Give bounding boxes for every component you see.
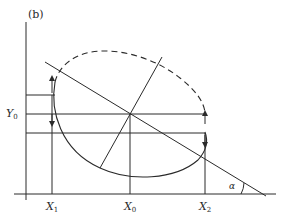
x0-label: X0 — [123, 200, 136, 214]
angle-arc — [241, 183, 244, 194]
panel-label: (b) — [28, 8, 44, 21]
y0-label: Y0 — [6, 107, 18, 121]
alpha-label: α — [229, 181, 235, 191]
diagram-canvas: (b) Y0 X1 X0 X2 α — [0, 0, 290, 220]
perpendicular-line — [100, 57, 162, 168]
ellipse-diagram: (b) Y0 X1 X0 X2 α — [0, 0, 290, 220]
x2-label: X2 — [198, 200, 211, 214]
x1-label: X1 — [45, 200, 58, 214]
